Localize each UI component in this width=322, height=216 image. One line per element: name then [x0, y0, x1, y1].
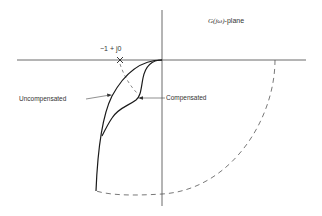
nyquist-diagram [0, 0, 322, 216]
uncompensated-label: Uncompensated [19, 96, 66, 103]
plane-label: G(jω)-plane [208, 17, 244, 25]
critical-point-label: −1 + j0 [100, 45, 121, 52]
uncompensated-leader [86, 95, 110, 99]
compensated-label: Compensated [166, 95, 206, 102]
plane-label-suffix: -plane [225, 17, 244, 24]
plane-label-symbol: G(jω) [208, 17, 225, 25]
uncompensated-curve [96, 60, 162, 191]
